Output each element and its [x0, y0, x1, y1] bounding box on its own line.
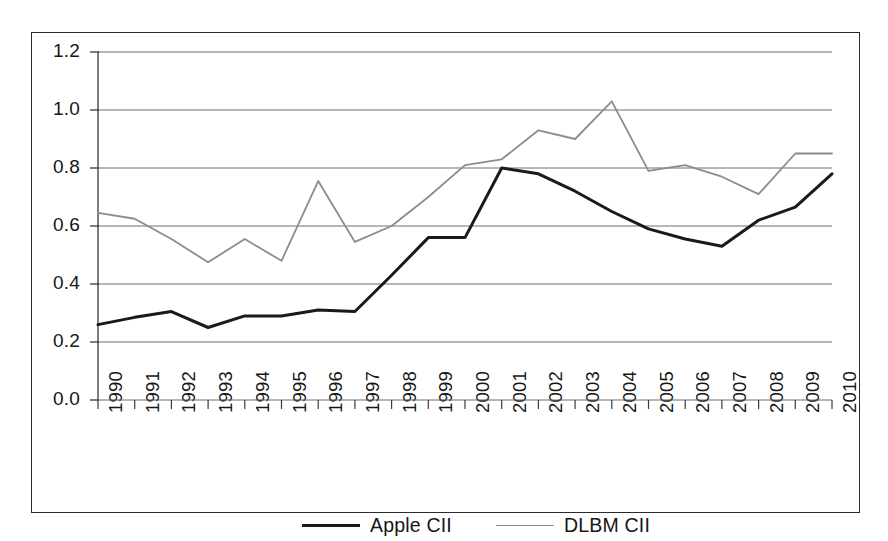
legend-item-apple-cii: Apple CII: [302, 514, 452, 537]
line-plot: [32, 33, 860, 512]
legend-item-dlbm-cii: DLBM CII: [496, 514, 650, 537]
chart-figure: 0.00.20.40.60.81.01.2 199019911992199319…: [0, 0, 888, 541]
chart-legend: Apple CIIDLBM CII: [32, 514, 888, 537]
legend-line-swatch: [496, 525, 554, 526]
legend-line-swatch: [302, 524, 360, 527]
chart-frame: 0.00.20.40.60.81.01.2 199019911992199319…: [31, 32, 860, 513]
series-line-apple-cii: [98, 168, 832, 328]
legend-label: Apple CII: [370, 514, 452, 537]
legend-label: DLBM CII: [564, 514, 650, 537]
